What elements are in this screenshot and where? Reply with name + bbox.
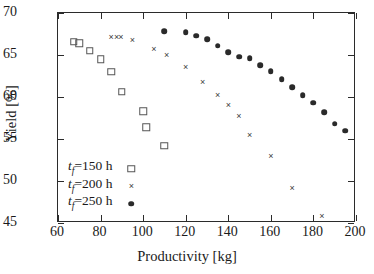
data-point: × (117, 33, 125, 41)
data-point (86, 47, 94, 55)
x-tick-mark-top (101, 13, 102, 19)
y-tick-mark-right (348, 181, 354, 182)
data-point: × (246, 131, 254, 139)
legend-marker-key (121, 160, 141, 178)
data-point: × (288, 184, 296, 192)
filled-circle-marker (225, 50, 231, 56)
data-point (311, 100, 317, 106)
filled-circle-marker (257, 62, 263, 68)
x-tick-label: 120 (174, 225, 195, 239)
cross-marker: × (235, 112, 243, 120)
x-tick-mark-top (228, 13, 229, 19)
y-tick-mark-right (348, 55, 354, 56)
data-point: × (199, 78, 207, 86)
legend-marker-key: × (121, 178, 141, 196)
open-square-marker (97, 55, 105, 63)
y-tick-label: 45 (3, 215, 17, 229)
filled-circle-marker (129, 201, 135, 207)
data-point (332, 121, 338, 127)
data-point (300, 93, 306, 99)
x-axis-title: Productivity [kg] (0, 248, 374, 265)
filled-circle-marker (300, 93, 306, 99)
data-point (321, 109, 327, 115)
cross-marker: × (127, 182, 135, 190)
data-point (215, 43, 221, 49)
filled-circle-marker (236, 54, 242, 60)
x-tick-label: 200 (345, 225, 366, 239)
open-square-marker (161, 142, 169, 150)
x-tick-mark-top (58, 13, 59, 19)
filled-circle-marker (321, 109, 327, 115)
data-point: × (163, 51, 171, 59)
y-tick-mark-right (348, 97, 354, 98)
data-point (97, 55, 105, 63)
open-square-marker (86, 47, 94, 55)
data-point (107, 68, 115, 76)
data-point (247, 56, 253, 62)
cross-marker: × (182, 63, 190, 71)
filled-circle-marker (289, 84, 295, 90)
y-tick-mark-right (348, 13, 354, 14)
y-tick-label: 70 (3, 5, 17, 19)
data-point: × (182, 63, 190, 71)
data-point (76, 39, 84, 47)
data-point (204, 36, 210, 42)
x-tick-label: 80 (93, 225, 107, 239)
x-tick-mark (186, 215, 187, 221)
data-point: × (318, 212, 326, 220)
y-tick-label: 65 (3, 47, 17, 61)
filled-circle-marker (311, 100, 317, 106)
filled-circle-marker (204, 36, 210, 42)
x-tick-mark-top (356, 13, 357, 19)
data-point (268, 68, 274, 74)
filled-circle-marker (247, 56, 253, 62)
data-point (143, 123, 151, 131)
data-point (225, 50, 231, 56)
x-tick-mark-top (186, 13, 187, 19)
filled-circle-marker (332, 121, 338, 127)
filled-circle-marker (268, 68, 274, 74)
data-point (289, 84, 295, 90)
data-point: × (214, 91, 222, 99)
x-tick-label: 160 (259, 225, 280, 239)
data-point: × (224, 101, 232, 109)
data-point: × (267, 152, 275, 160)
data-point: × (235, 112, 243, 120)
legend-row: tf=250 h (68, 195, 141, 213)
filled-circle-marker (215, 43, 221, 49)
open-square-marker (76, 39, 84, 47)
x-tick-mark (58, 215, 59, 221)
x-tick-mark (313, 215, 314, 221)
cross-marker: × (150, 45, 158, 53)
data-point (236, 54, 242, 60)
y-tick-label: 60 (3, 89, 17, 103)
cross-marker: × (246, 131, 254, 139)
x-tick-mark (271, 215, 272, 221)
x-tick-mark (228, 215, 229, 221)
y-tick-mark (58, 223, 64, 224)
data-point (162, 29, 168, 35)
x-tick-mark-top (271, 13, 272, 19)
cross-marker: × (267, 152, 275, 160)
y-tick-mark-right (348, 139, 354, 140)
filled-circle-marker (279, 77, 285, 83)
cross-marker: × (288, 184, 296, 192)
y-axis-title: Yield [%] (3, 54, 20, 174)
x-tick-mark (143, 215, 144, 221)
open-square-marker (139, 108, 147, 116)
x-tick-mark (101, 215, 102, 221)
cross-marker: × (129, 36, 137, 44)
cross-marker: × (214, 91, 222, 99)
y-tick-mark-right (348, 223, 354, 224)
data-point (257, 62, 263, 68)
filled-circle-marker (183, 30, 189, 36)
y-tick-mark (58, 97, 64, 98)
data-point: × (129, 36, 137, 44)
data-point (343, 128, 349, 134)
data-point (118, 88, 126, 96)
scatter-chart-figure: Yield [%] Productivity [kg] 455055606570… (0, 0, 374, 274)
data-point (161, 142, 169, 150)
x-tick-mark (356, 215, 357, 221)
filled-circle-marker (162, 29, 168, 35)
cross-marker: × (224, 101, 232, 109)
